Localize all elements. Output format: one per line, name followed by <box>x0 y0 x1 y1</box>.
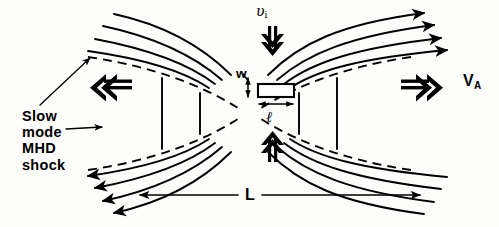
field-lines-upper-left <box>88 14 231 88</box>
slow-mode-shock-separatrices <box>88 57 411 170</box>
inflow-velocity-symbol: υ <box>256 3 265 19</box>
inflow-velocity-label: υi <box>256 4 267 20</box>
diffusion-region-rect <box>258 84 294 97</box>
layer-length-label: ℓ <box>266 109 272 126</box>
outflow-arrow-right <box>401 74 443 102</box>
field-lines-lower-right <box>268 139 447 214</box>
inflow-arrow-top <box>261 26 284 56</box>
system-length-label: L <box>245 186 255 204</box>
field-lines-upper-right <box>268 13 447 88</box>
alfven-velocity-symbol: V <box>463 72 474 89</box>
field-lines-lower-left <box>88 139 231 213</box>
shock-label-line3: MHD <box>22 140 56 156</box>
alfven-velocity-label: VA <box>463 72 481 91</box>
shock-label-line2: mode <box>22 124 62 140</box>
shock-label-line1: Slow <box>22 108 57 124</box>
alfven-velocity-subscript: A <box>474 80 481 91</box>
outflow-arrow-left <box>90 74 132 102</box>
layer-width-label: w <box>236 66 247 81</box>
outflow-wedge-brackets <box>162 78 337 149</box>
slow-mode-shock-label: Slow mode MHD shock <box>22 108 65 173</box>
inflow-velocity-subscript: i <box>265 10 268 20</box>
shock-label-line4: shock <box>22 157 65 173</box>
figure-canvas: Slow mode MHD shock υi VA w ℓ L <box>0 0 499 227</box>
